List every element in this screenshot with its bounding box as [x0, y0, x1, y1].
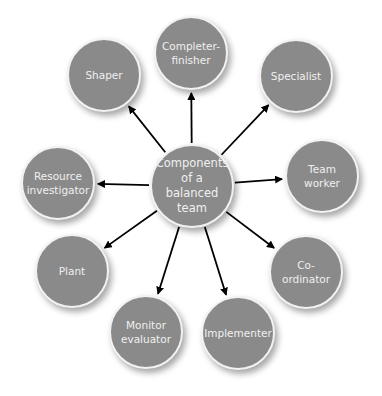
node-monitor-evaluator-label: Monitor evaluator [121, 318, 171, 346]
node-specialist-label: Specialist [271, 69, 321, 83]
node-monitor-evaluator: Monitor evaluator [109, 295, 183, 369]
arrow-to-team-worker [235, 179, 282, 183]
node-co-ordinator: Co-ordinator [269, 235, 343, 309]
arrow-to-shaper [129, 106, 165, 152]
center-node-label: Components of a balanced team [156, 156, 229, 216]
arrow-to-plant [105, 211, 157, 248]
arrow-to-resource-investigator [98, 184, 149, 185]
center-node: Components of a balanced team [150, 144, 234, 228]
node-resource-investigator: Resource investigator [21, 146, 95, 220]
arrow-to-co-ordinator [226, 212, 274, 248]
arrow-to-implementer [205, 227, 226, 295]
node-plant: Plant [35, 234, 109, 308]
node-plant-label: Plant [59, 264, 85, 278]
node-completer-finisher: Completer- finisher [154, 16, 228, 90]
node-specialist: Specialist [259, 39, 333, 113]
node-implementer: Implementer [201, 296, 275, 370]
node-team-worker-label: Team worker [304, 162, 340, 190]
node-resource-investigator-label: Resource investigator [27, 169, 90, 197]
node-team-worker: Team worker [285, 139, 359, 213]
node-shaper-label: Shaper [85, 68, 122, 82]
node-co-ordinator-label: Co-ordinator [275, 258, 337, 286]
arrow-to-specialist [222, 105, 269, 155]
node-shaper: Shaper [67, 38, 141, 112]
node-completer-finisher-label: Completer- finisher [162, 39, 220, 67]
node-implementer-label: Implementer [204, 326, 272, 340]
arrow-to-monitor-evaluator [158, 227, 179, 294]
